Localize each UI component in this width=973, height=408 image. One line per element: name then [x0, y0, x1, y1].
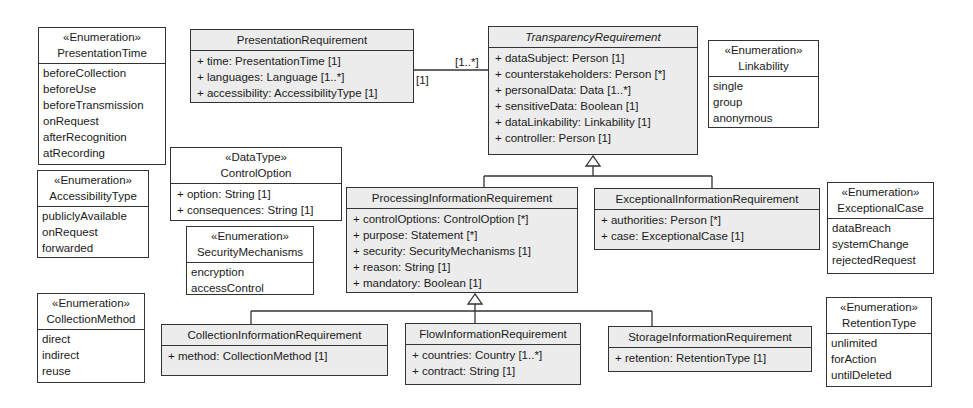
enum-name: AccessibilityType — [42, 188, 144, 204]
enum-name: RetentionType — [831, 315, 927, 331]
enum-literal: onRequest — [43, 113, 161, 129]
enum-literals: encryption accessControl — [187, 263, 313, 299]
datatype-attribute: + option: String [1] — [177, 186, 335, 202]
class-attribute: + dataSubject: Person [1] — [495, 50, 691, 66]
datatype-control-option[interactable]: «DataType» ControlOption + option: Strin… — [170, 147, 342, 221]
class-flow-information-requirement[interactable]: FlowInformationRequirement + countries: … — [405, 323, 581, 385]
enum-literal: forAction — [831, 351, 927, 367]
stereotype-label: «Enumeration» — [42, 295, 140, 311]
enum-header: «Enumeration» RetentionType — [827, 298, 931, 334]
class-attribute: + accessibility: AccessibilityType [1] — [197, 85, 407, 101]
enum-literal: afterRecognition — [43, 129, 161, 145]
enum-security-mechanisms[interactable]: «Enumeration» SecurityMechanisms encrypt… — [186, 226, 314, 295]
enum-literal: group — [713, 94, 814, 110]
class-name: CollectionInformationRequirement — [166, 327, 383, 343]
enum-literal: atRecording — [43, 145, 161, 161]
enum-retention-type[interactable]: «Enumeration» RetentionType unlimited fo… — [826, 297, 932, 387]
enum-literal: forwarded — [42, 240, 144, 256]
class-attribute: + contract: String [1] — [412, 363, 574, 379]
enum-header: «Enumeration» ExceptionalCase — [828, 183, 933, 219]
enum-literal: direct — [42, 331, 140, 347]
class-attribute: + counterstakeholders: Person [*] — [495, 66, 691, 82]
class-attributes: + controlOptions: ControlOption [*] + pu… — [347, 209, 577, 295]
enum-name: SecurityMechanisms — [191, 244, 309, 260]
enum-literals: publiclyAvailable onRequest forwarded — [38, 207, 148, 259]
enum-literal: onRequest — [42, 224, 144, 240]
enum-name: ExceptionalCase — [832, 200, 929, 216]
stereotype-label: «Enumeration» — [713, 42, 814, 58]
class-header: CollectionInformationRequirement — [162, 325, 387, 346]
enum-header: «Enumeration» PresentationTime — [39, 28, 165, 64]
stereotype-label: «Enumeration» — [191, 228, 309, 244]
enum-presentation-time[interactable]: «Enumeration» PresentationTime beforeCol… — [38, 27, 166, 165]
enum-literals: single group anonymous — [709, 77, 818, 129]
stereotype-label: «Enumeration» — [42, 172, 144, 188]
class-attribute: + purpose: Statement [*] — [353, 227, 571, 243]
enum-literal: accessControl — [191, 280, 309, 296]
datatype-attribute: + consequences: String [1] — [177, 202, 335, 218]
class-attribute: + personalData: Data [1..*] — [495, 82, 691, 98]
class-attribute: + reason: String [1] — [353, 259, 571, 275]
class-attributes: + dataSubject: Person [1] + counterstake… — [489, 48, 697, 150]
class-attribute: + dataLinkability: Linkability [1] — [495, 114, 691, 130]
enum-literals: beforeCollection beforeUse beforeTransmi… — [39, 64, 165, 164]
enum-literal: untilDeleted — [831, 367, 927, 383]
class-name: TransparencyRequirement — [493, 29, 693, 45]
class-storage-information-requirement[interactable]: StorageInformationRequirement + retentio… — [608, 326, 812, 372]
datatype-attributes: + option: String [1] + consequences: Str… — [171, 184, 341, 222]
class-attributes: + time: PresentationTime [1] + languages… — [191, 51, 413, 105]
class-exceptional-information-requirement[interactable]: ExceptionalInformationRequirement + auth… — [594, 188, 820, 250]
enum-literal: single — [713, 78, 814, 94]
class-name: FlowInformationRequirement — [410, 326, 576, 342]
enum-literal: anonymous — [713, 110, 814, 126]
enum-literal: beforeUse — [43, 81, 161, 97]
enum-exceptional-case[interactable]: «Enumeration» ExceptionalCase dataBreach… — [827, 182, 934, 274]
class-transparency-requirement[interactable]: TransparencyRequirement + dataSubject: P… — [488, 26, 698, 155]
class-attribute: + retention: RetentionType [1] — [615, 350, 805, 366]
generalization-arrowhead — [468, 294, 482, 304]
stereotype-label: «Enumeration» — [831, 299, 927, 315]
enum-linkability[interactable]: «Enumeration» Linkability single group a… — [708, 40, 819, 128]
class-attribute: + authorities: Person [*] — [601, 212, 813, 228]
enum-literal: unlimited — [831, 335, 927, 351]
class-attribute: + controller: Person [1] — [495, 130, 691, 146]
enum-name: PresentationTime — [43, 45, 161, 61]
class-header: TransparencyRequirement — [489, 27, 697, 48]
class-collection-information-requirement[interactable]: CollectionInformationRequirement + metho… — [161, 324, 388, 376]
class-attribute: + countries: Country [1..*] — [412, 347, 574, 363]
enum-literal: indirect — [42, 347, 140, 363]
class-attribute: + time: PresentationTime [1] — [197, 53, 407, 69]
enum-header: «Enumeration» CollectionMethod — [38, 294, 144, 330]
enum-literal: beforeCollection — [43, 65, 161, 81]
enum-literal: systemChange — [832, 236, 929, 252]
class-attribute: + mandatory: Boolean [1] — [353, 275, 571, 291]
class-name: PresentationRequirement — [195, 32, 409, 48]
class-header: StorageInformationRequirement — [609, 327, 811, 348]
enum-header: «Enumeration» SecurityMechanisms — [187, 227, 313, 263]
class-name: ProcessingInformationRequirement — [351, 190, 573, 206]
class-processing-information-requirement[interactable]: ProcessingInformationRequirement + contr… — [346, 187, 578, 293]
enum-name: Linkability — [713, 58, 814, 74]
class-attribute: + languages: Language [1..*] — [197, 69, 407, 85]
enum-literal: encryption — [191, 264, 309, 280]
class-attribute: + sensitiveData: Boolean [1] — [495, 98, 691, 114]
class-attributes: + retention: RetentionType [1] — [609, 348, 811, 370]
datatype-name: ControlOption — [175, 165, 337, 181]
class-header: ProcessingInformationRequirement — [347, 188, 577, 209]
class-attributes: + countries: Country [1..*] + contract: … — [406, 345, 580, 383]
class-header: ExceptionalInformationRequirement — [595, 189, 819, 210]
enum-header: «Enumeration» Linkability — [709, 41, 818, 77]
class-name: ExceptionalInformationRequirement — [599, 191, 815, 207]
class-attribute: + security: SecurityMechanisms [1] — [353, 243, 571, 259]
enum-header: «Enumeration» AccessibilityType — [38, 171, 148, 207]
enum-literal: beforeTransmission — [43, 97, 161, 113]
enum-name: CollectionMethod — [42, 311, 140, 327]
class-presentation-requirement[interactable]: PresentationRequirement + time: Presenta… — [190, 29, 414, 103]
class-attributes: + method: CollectionMethod [1] — [162, 346, 387, 368]
class-header: PresentationRequirement — [191, 30, 413, 51]
class-header: FlowInformationRequirement — [406, 324, 580, 345]
generalization-arrowhead — [586, 156, 600, 166]
enum-literal: publiclyAvailable — [42, 208, 144, 224]
enum-collection-method[interactable]: «Enumeration» CollectionMethod direct in… — [37, 293, 145, 383]
enum-accessibility-type[interactable]: «Enumeration» AccessibilityType publicly… — [37, 170, 149, 258]
